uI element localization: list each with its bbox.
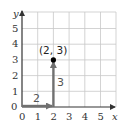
vertical-step-label: 3 — [57, 76, 64, 89]
svg-text:3: 3 — [12, 54, 18, 65]
svg-text:5: 5 — [12, 23, 18, 34]
svg-text:1: 1 — [35, 111, 41, 122]
y-tick-labels: 0 1 2 3 4 5 — [11, 23, 18, 112]
svg-text:0: 0 — [11, 101, 17, 112]
svg-text:2: 2 — [12, 70, 18, 81]
svg-text:5: 5 — [98, 111, 104, 122]
x-tick-labels: 0 1 2 3 4 5 — [19, 111, 104, 122]
coordinate-plane: x y 0 1 2 3 4 5 0 1 2 3 4 5 2 3 (2, 3) — [0, 0, 122, 124]
svg-text:3: 3 — [66, 111, 72, 122]
x-axis-label: x — [112, 111, 118, 122]
y-axis-label: y — [12, 8, 19, 19]
svg-text:0: 0 — [19, 111, 25, 122]
point-label: (2, 3) — [39, 44, 67, 56]
svg-text:4: 4 — [12, 38, 18, 49]
svg-text:4: 4 — [82, 111, 88, 122]
svg-text:1: 1 — [12, 86, 18, 97]
point-2-3 — [51, 57, 56, 62]
horizontal-step-label: 2 — [33, 92, 40, 105]
svg-text:2: 2 — [50, 111, 56, 122]
